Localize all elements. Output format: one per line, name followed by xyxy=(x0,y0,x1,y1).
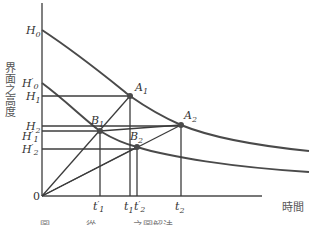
label-h0: H0 xyxy=(25,24,41,39)
label-h1: H1 xyxy=(25,90,41,105)
figure-caption-partial: 圖 ……… 從 ……… 之圖解法 xyxy=(40,217,311,225)
label-t-prime-1: t′1 xyxy=(93,199,104,214)
ray-origin-b2 xyxy=(42,147,137,196)
label-a2: A2 xyxy=(183,109,197,124)
point-a2 xyxy=(178,122,184,128)
x-axis-label: 時間 xyxy=(282,201,304,214)
label-t1: t1 xyxy=(124,200,134,215)
label-t2: t2 xyxy=(175,200,185,215)
upper-settling-curve xyxy=(42,30,309,151)
label-t-prime-2: t′2 xyxy=(134,199,145,214)
label-h-prime-0: H′0 xyxy=(21,76,39,91)
label-h-prime-2: H′2 xyxy=(21,142,39,157)
label-a1: A1 xyxy=(134,81,148,96)
label-b2: B2 xyxy=(129,130,143,145)
ray-origin-a1 xyxy=(42,96,130,196)
origin-label: 0 xyxy=(33,190,40,203)
point-a1 xyxy=(127,93,133,99)
label-b1: B1 xyxy=(90,114,104,129)
settling-diagram: H0 H′0 H1 H2 H′1 H′2 0 t′1 t1 t′2 t2 A1 … xyxy=(0,0,311,225)
